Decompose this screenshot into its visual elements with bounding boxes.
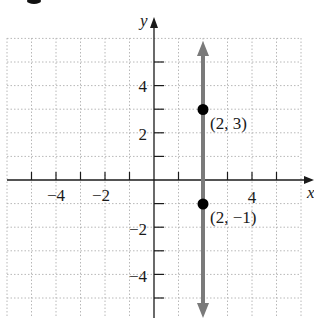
coordinate-plane: y x −4 −2 4 4 2 −2 −4 (2, 3) (2, −1) xyxy=(0,0,314,318)
y-tick-label-neg2: −2 xyxy=(129,220,147,239)
x-axis-label: x xyxy=(306,183,314,202)
line-up-arrow-icon xyxy=(197,41,209,56)
y-tick-label-2: 2 xyxy=(139,125,148,144)
point-label-2-3: (2, 3) xyxy=(210,114,247,133)
x-tick-label-neg4: −4 xyxy=(47,186,66,205)
y-tick-label-4: 4 xyxy=(139,77,148,96)
x-tick-label-4: 4 xyxy=(248,188,257,207)
y-axis-arrow-icon xyxy=(150,17,158,28)
point-label-2-neg1: (2, −1) xyxy=(210,208,256,227)
point-2-3 xyxy=(198,104,209,115)
y-tick-label-neg4: −4 xyxy=(129,267,148,286)
x-tick-label-neg2: −2 xyxy=(92,186,110,205)
cropped-glyph-fragment xyxy=(27,0,41,4)
line-down-arrow-icon xyxy=(197,303,209,318)
y-axis-label: y xyxy=(138,11,148,30)
point-2-neg1 xyxy=(198,199,209,210)
